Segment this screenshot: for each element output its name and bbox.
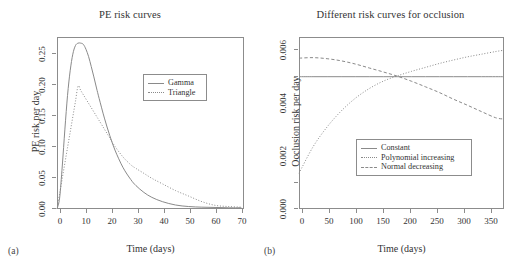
legend-item-polynomial-increasing: Polynomial increasing (361, 153, 466, 163)
panel-a-curves (0, 0, 260, 269)
legend-item-gamma: Gamma (148, 78, 201, 88)
legend-label-constant: Constant (381, 143, 410, 153)
panel-b-curves (260, 0, 521, 269)
panel-b-legend: Constant Polynomial increasing Normal de… (356, 139, 472, 176)
panel-b: Different risk curves for occlusion (b) … (260, 0, 521, 269)
legend-line-dashed-icon (361, 162, 377, 171)
panel-a: PE risk curves (a) PE risk per day Time … (0, 0, 260, 269)
legend-line-dotted-icon (148, 88, 164, 97)
curve-gamma (57, 43, 241, 209)
legend-line-solid-icon (148, 78, 164, 87)
figure-container: PE risk curves (a) PE risk per day Time … (0, 0, 521, 269)
legend-line-dotted-icon (361, 153, 377, 162)
legend-item-normal-decreasing: Normal decreasing (361, 162, 466, 172)
curve-triangle (57, 86, 241, 209)
legend-line-solid-icon (361, 143, 377, 152)
legend-item-triangle: Triangle (148, 88, 201, 98)
panel-a-legend: Gamma Triangle (143, 74, 207, 101)
legend-label-polynomial-increasing: Polynomial increasing (381, 153, 454, 163)
legend-item-constant: Constant (361, 143, 466, 153)
legend-label-triangle: Triangle (168, 88, 195, 98)
legend-label-normal-decreasing: Normal decreasing (381, 162, 443, 172)
legend-label-gamma: Gamma (168, 78, 194, 88)
curve-normal-decreasing (299, 58, 504, 119)
